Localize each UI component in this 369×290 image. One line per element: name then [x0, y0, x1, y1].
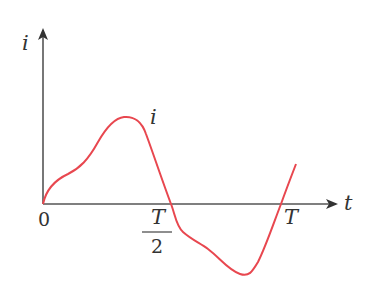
waveform-diagram: i t i 0 T 2 T — [0, 0, 369, 290]
curve-label: i — [150, 105, 157, 129]
y-axis-label: i — [22, 31, 29, 55]
origin-label: 0 — [38, 208, 50, 230]
x-axis-label: t — [344, 191, 353, 215]
period-label: T — [284, 205, 300, 229]
half-period-numerator: T — [151, 205, 167, 229]
half-period-denominator: 2 — [151, 235, 163, 257]
current-curve — [43, 117, 296, 275]
